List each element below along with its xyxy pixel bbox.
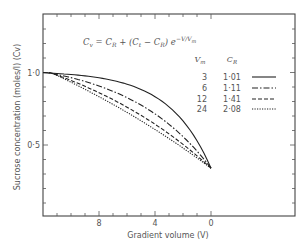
legend-header-cr: CR	[227, 55, 237, 65]
legend-cr-value: 2·08	[223, 105, 241, 114]
curve-vm-24	[43, 73, 211, 169]
legend: VmCR31·0161·11121·41242·08	[195, 55, 277, 114]
y-tick-label: 1·0	[27, 69, 40, 78]
curves	[43, 73, 211, 169]
x-tick-label: 4	[152, 219, 157, 228]
legend-vm-value: 3	[202, 73, 207, 82]
x-tick-label: 0	[208, 219, 213, 228]
y-tick-label: 0·5	[27, 141, 40, 150]
legend-cr-value: 1·41	[223, 95, 241, 104]
x-tick-label: 8	[96, 219, 101, 228]
y-axis-label: Sucrose concentration (moles/l) (Cv)	[13, 44, 22, 190]
legend-vm-value: 24	[197, 105, 207, 114]
legend-cr-value: 1·01	[223, 73, 241, 82]
curve-vm-3	[43, 73, 211, 168]
legend-cr-value: 1·11	[223, 84, 241, 93]
x-axis-label: Gradient volume (V)	[127, 231, 208, 240]
curve-vm-6	[43, 73, 211, 169]
legend-header-vm: Vm	[195, 55, 206, 65]
legend-vm-value: 6	[202, 84, 207, 93]
chart: 8401·00·5 VmCR31·0161·11121·41242·08 Cv …	[0, 0, 308, 251]
curve-vm-12	[43, 73, 211, 169]
equation: Cv = CR + (Ct − CR) e−V/Vm	[83, 35, 197, 48]
legend-vm-value: 12	[197, 95, 207, 104]
